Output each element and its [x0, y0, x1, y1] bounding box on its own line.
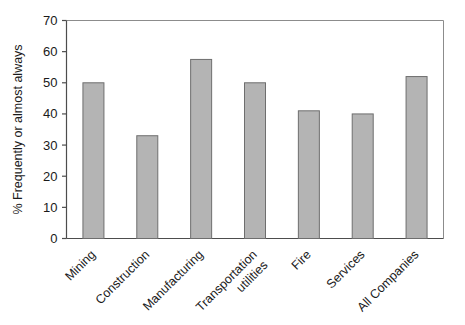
y-axis-title-text: % Frequently or almost always — [11, 44, 25, 214]
y-tick-label: 50 — [43, 75, 57, 90]
y-tick-label: 40 — [43, 106, 57, 121]
x-axis-label-line: Construction — [93, 247, 153, 307]
bar — [191, 59, 212, 238]
bar — [352, 114, 373, 239]
y-tick-label: 70 — [43, 13, 57, 28]
y-tick-label: 0 — [50, 231, 57, 246]
y-tick-label: 30 — [43, 138, 57, 153]
x-axis-label-line: Fire — [289, 247, 314, 272]
bar — [298, 111, 319, 239]
bar — [137, 136, 158, 239]
y-tick-label: 60 — [43, 44, 57, 59]
bar — [406, 77, 427, 239]
x-axis-label: Transportationutilities — [193, 247, 270, 324]
y-tick-label: 20 — [43, 169, 57, 184]
bar-chart: 010203040506070 MiningConstructionManufa… — [0, 0, 465, 325]
y-axis-title: % Frequently or almost always — [11, 44, 25, 214]
chart-canvas: 010203040506070 MiningConstructionManufa… — [0, 0, 465, 325]
x-axis-label: Fire — [289, 247, 314, 272]
x-axis-label-line: Services — [324, 248, 368, 292]
y-tick-label: 10 — [43, 200, 57, 215]
x-axis-label: Construction — [93, 247, 153, 307]
x-axis-label: Mining — [62, 247, 98, 283]
bar-series — [83, 59, 427, 238]
bar — [245, 83, 266, 239]
x-axis-label: Services — [324, 248, 368, 292]
x-axis-label-line: Mining — [62, 247, 98, 283]
x-axis-labels: MiningConstructionManufacturingTransport… — [62, 247, 421, 324]
bar — [83, 83, 104, 239]
